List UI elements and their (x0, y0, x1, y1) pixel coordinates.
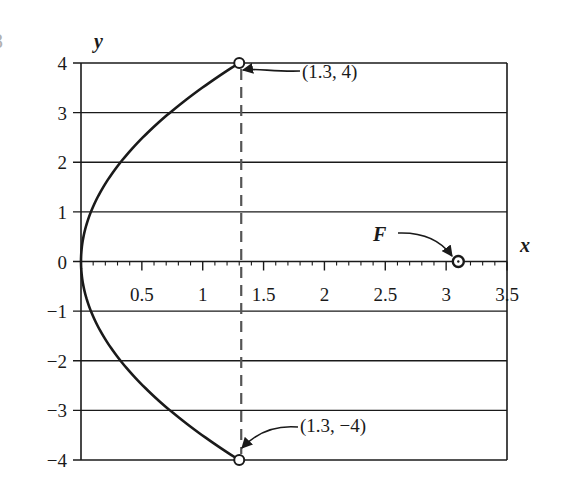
y-tick-label: −2 (47, 351, 67, 372)
x-tick-label: 3 (441, 284, 451, 305)
y-tick-label: −4 (47, 450, 68, 471)
focus-label: F (372, 223, 387, 245)
x-tick-label: 1 (198, 284, 208, 305)
point-bottom-marker (234, 455, 244, 465)
y-tick-label: 4 (58, 53, 68, 74)
annotation-top-point: (1.3, 4) (302, 61, 357, 83)
x-tick-label: 2 (320, 284, 330, 305)
y-tick-label: −3 (47, 400, 67, 421)
y-tick-label: 2 (58, 152, 68, 173)
x-tick-label: 0.5 (130, 284, 154, 305)
x-tick-label: 3.5 (495, 284, 519, 305)
x-tick-label: 1.5 (252, 284, 276, 305)
parabola-chart: 43210−1−2−3−4 0.511.522.533.5 (1.3, 4) (… (0, 0, 562, 498)
y-tick-label: 1 (58, 202, 68, 223)
y-tick-label: 0 (58, 252, 68, 273)
x-tick-labels: 0.511.522.533.5 (130, 284, 519, 305)
x-tick-label: 2.5 (373, 284, 397, 305)
y-axis-label: y (92, 30, 103, 53)
y-tick-label: −1 (47, 301, 67, 322)
grid-lines (73, 63, 507, 460)
x-axis-label: x (519, 234, 530, 256)
arrow-bottom-annotation (242, 427, 298, 448)
arrow-top-annotation (243, 69, 300, 71)
cutoff-figure-number: 8 (0, 28, 3, 53)
focus-point-center (457, 260, 459, 262)
annotation-bottom-point: (1.3, −4) (300, 415, 366, 437)
x-axis-ticks (93, 262, 507, 271)
point-top-marker (234, 58, 244, 68)
arrow-focus-annotation (398, 233, 452, 256)
y-tick-label: 3 (58, 103, 68, 124)
y-tick-labels: 43210−1−2−3−4 (47, 53, 68, 471)
